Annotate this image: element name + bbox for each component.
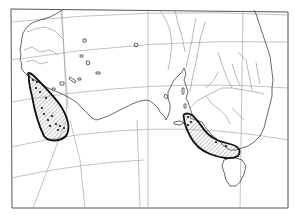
eastern-range <box>183 114 239 159</box>
map-canvas <box>0 0 303 215</box>
coastline <box>20 10 273 186</box>
eastern-range-outline <box>183 114 239 159</box>
tasmania <box>222 158 246 186</box>
western-range-outline <box>28 73 69 141</box>
distribution-map <box>0 0 303 215</box>
western-range <box>28 73 69 141</box>
kangaroo-island <box>174 121 184 125</box>
